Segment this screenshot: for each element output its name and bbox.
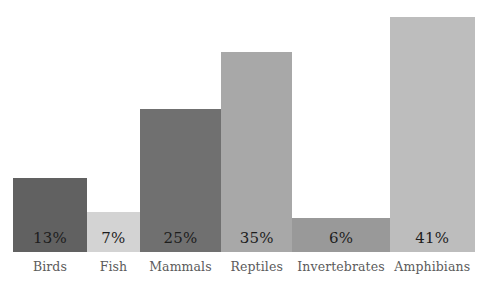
- bar-column-amphibians: 41%: [390, 0, 475, 252]
- bar-fish[interactable]: 7%: [87, 212, 140, 252]
- bar-column-mammals: 25%: [140, 0, 221, 252]
- category-label-reptiles: Reptiles: [221, 254, 293, 280]
- bar-column-invertebrates: 6%: [292, 0, 389, 252]
- plot-area: 13% 7% 25% 35% 6% 41%: [13, 0, 475, 252]
- bar-value-label: 13%: [13, 231, 87, 252]
- category-axis-labels: Birds Fish Mammals Reptiles Invertebrate…: [13, 254, 475, 280]
- bar-value-label: 7%: [87, 231, 140, 252]
- bar-amphibians[interactable]: 41%: [390, 17, 475, 252]
- bar-column-reptiles: 35%: [221, 0, 293, 252]
- bar-value-label: 25%: [140, 231, 221, 252]
- category-label-amphibians: Amphibians: [390, 254, 475, 280]
- category-label-birds: Birds: [13, 254, 87, 280]
- bar-column-fish: 7%: [87, 0, 140, 252]
- category-label-fish: Fish: [87, 254, 140, 280]
- bar-chart: 13% 7% 25% 35% 6% 41%: [0, 0, 488, 286]
- category-label-invertebrates: Invertebrates: [292, 254, 389, 280]
- bar-invertebrates[interactable]: 6%: [292, 218, 389, 252]
- bar-value-label: 41%: [390, 231, 475, 252]
- bar-birds[interactable]: 13%: [13, 178, 87, 252]
- bar-value-label: 35%: [221, 231, 293, 252]
- bar-reptiles[interactable]: 35%: [221, 52, 293, 252]
- bar-column-birds: 13%: [13, 0, 87, 252]
- category-label-mammals: Mammals: [140, 254, 221, 280]
- bar-mammals[interactable]: 25%: [140, 109, 221, 252]
- bar-value-label: 6%: [292, 231, 389, 252]
